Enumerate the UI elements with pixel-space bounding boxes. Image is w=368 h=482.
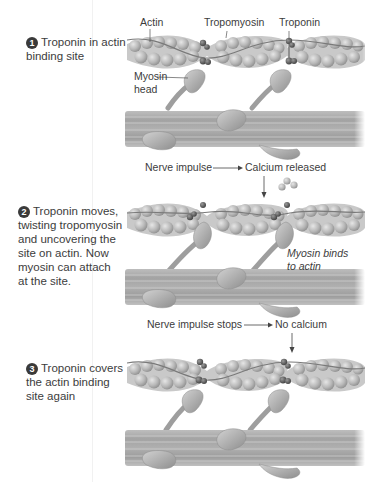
label-myosin-binds-to-actin: Myosin binds to actin [287, 247, 348, 273]
event-effect-calcium-released: Calcium released [245, 161, 326, 173]
step-1-caption: 1Troponin in actin binding site [26, 35, 126, 63]
event-cause-nerve-impulse-stops: Nerve impulse stops [147, 318, 242, 330]
step-3-caption: 3Troponin covers the actin binding site … [26, 361, 123, 403]
step-2-caption: 2Troponin moves, twisting tropomyosin an… [18, 204, 122, 288]
label-troponin: Troponin [279, 16, 320, 28]
calcium-ions [278, 177, 297, 190]
label-tropomyosin: Tropomyosin [204, 16, 264, 28]
step-number-badge: 2 [18, 206, 30, 218]
label-myosin-head: Myosin head [134, 70, 167, 96]
event-effect-no-calcium: No calcium [275, 318, 327, 330]
step-number-badge: 3 [26, 363, 38, 375]
label-actin: Actin [140, 16, 163, 28]
event-cause-nerve-impulse: Nerve impulse [145, 161, 212, 173]
panel-3-diagram [125, 358, 365, 478]
step-number-badge: 1 [26, 37, 38, 49]
